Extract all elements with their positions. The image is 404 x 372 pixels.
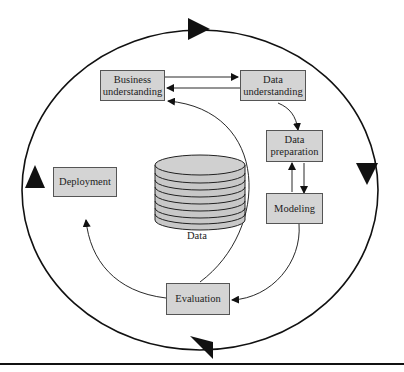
outer-arrow-bottom-icon	[190, 336, 213, 359]
phase-label: preparation	[271, 146, 319, 158]
phase-label: Evaluation	[175, 293, 221, 305]
phase-evaluation: Evaluation	[166, 283, 230, 315]
phase-label: Deployment	[59, 176, 111, 188]
phase-label: Modeling	[274, 203, 315, 215]
arrow-data-understanding-to-preparation	[278, 103, 298, 130]
database-cylinder-icon	[155, 155, 245, 230]
outer-arrow-left-icon	[25, 165, 45, 188]
phase-business-understanding: Business understanding	[100, 70, 165, 101]
outer-arrow-top-icon	[188, 18, 210, 40]
phase-data-preparation: Data preparation	[266, 130, 323, 162]
arrow-modeling-to-evaluation	[232, 224, 299, 300]
phase-deployment: Deployment	[53, 167, 117, 197]
phase-data-understanding: Data understanding	[240, 70, 306, 101]
data-store-label: Data	[187, 230, 207, 241]
phase-label: Data	[271, 134, 319, 146]
phase-label: Business	[103, 74, 163, 86]
phase-modeling: Modeling	[266, 193, 323, 224]
outer-arrow-right-icon	[356, 163, 378, 185]
arrow-evaluation-to-deployment	[86, 220, 166, 298]
phase-label: understanding	[243, 86, 303, 98]
phase-label: understanding	[103, 86, 163, 98]
phase-label: Data	[243, 74, 303, 86]
